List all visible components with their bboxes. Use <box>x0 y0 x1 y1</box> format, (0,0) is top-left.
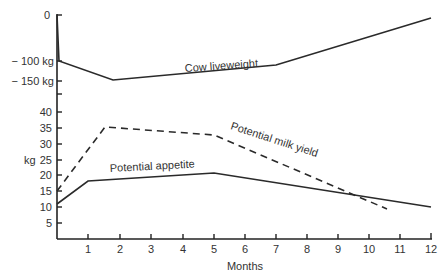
label-potential-milk-yield: Potential milk yield <box>229 119 319 159</box>
series-cow-liveweight <box>57 15 431 80</box>
svg-text:3: 3 <box>148 243 154 255</box>
svg-text:11: 11 <box>394 243 405 255</box>
x-ticks <box>88 233 431 239</box>
svg-text:40: 40 <box>40 106 52 118</box>
lactation-chart: 0 − 100 kg − 150 kg 40 35 30 25 20 15 10… <box>0 0 447 279</box>
svg-text:9: 9 <box>335 243 341 255</box>
svg-text:25: 25 <box>40 154 52 166</box>
svg-text:8: 8 <box>304 243 310 255</box>
svg-text:7: 7 <box>273 243 279 255</box>
svg-text:6: 6 <box>242 243 248 255</box>
svg-text:12: 12 <box>425 243 437 255</box>
series-potential-milk-yield <box>57 127 387 209</box>
svg-text:15: 15 <box>40 185 52 197</box>
svg-text:5: 5 <box>211 243 217 255</box>
x-tick-labels: 1 2 3 4 5 6 7 8 9 10 11 12 <box>85 243 437 255</box>
y-axis-label: kg <box>24 154 36 166</box>
upper-tick-100: − 100 kg <box>11 55 54 67</box>
svg-text:10: 10 <box>40 201 52 213</box>
label-cow-liveweight: Cow liveweight <box>184 57 258 74</box>
svg-text:1: 1 <box>85 243 91 255</box>
upper-tick-150: − 150 kg <box>11 75 54 87</box>
label-potential-appetite: Potential appetite <box>109 158 195 174</box>
svg-text:30: 30 <box>40 138 52 150</box>
x-axis-label: Months <box>227 260 264 272</box>
svg-text:35: 35 <box>40 122 52 134</box>
svg-text:4: 4 <box>180 243 186 255</box>
series-potential-appetite <box>57 173 431 207</box>
lower-y-tick-labels: 40 35 30 25 20 15 10 5 <box>40 106 52 229</box>
svg-text:5: 5 <box>46 217 52 229</box>
svg-text:2: 2 <box>117 243 123 255</box>
svg-text:20: 20 <box>40 169 52 181</box>
upper-tick-0: 0 <box>44 9 50 21</box>
svg-text:10: 10 <box>363 243 375 255</box>
